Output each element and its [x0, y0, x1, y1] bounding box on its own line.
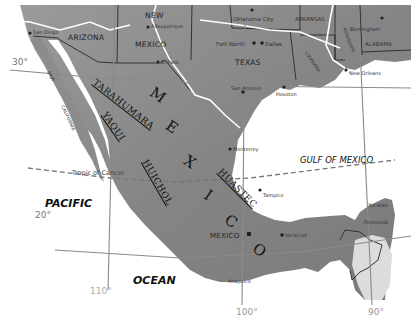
latitude-label-30: 30° [12, 58, 28, 67]
state-label-mexico: MEXICO [135, 41, 167, 49]
city-label-yucatan: Yucatan [368, 203, 388, 208]
city-label-dallas: Dallas [265, 42, 282, 48]
city-label-el-paso: El Paso [161, 60, 179, 65]
city-label-tampico: Tampico [263, 193, 284, 198]
city-label-acapulco: Acapulco [228, 279, 251, 284]
city-label-peninsula: Peninsula [364, 220, 388, 225]
state-label-arizona: ARIZONA [68, 34, 104, 42]
ocean-label-ocean: OCEAN [133, 275, 176, 286]
city-label-houston: Houston [276, 92, 297, 97]
map-of-mexico: ARIZONA NEW MEXICO TEXAS ARKANSAS LOUISI… [0, 0, 411, 323]
city-label-new-orleans: New Orleans [349, 71, 381, 76]
state-label-arkansas: ARKANSAS [295, 17, 325, 23]
city-label-san-antonio: San Antonio [231, 86, 261, 91]
city-label-albuquerque: Albuquerque [151, 24, 183, 29]
city-label-san-diego: San Diego [33, 30, 59, 35]
ocean-label-gulf-of-mexico: GULF OF MEXICO [300, 156, 373, 165]
tropic-of-cancer-label: Tropic of Cancer [72, 170, 124, 177]
city-label-fort-worth: Fort Worth [216, 42, 245, 48]
city-label-birmingham: Birmingham [350, 27, 381, 32]
longitude-label-110: 110° [90, 287, 112, 296]
latitude-label-20: 20° [35, 211, 51, 220]
state-label-texas: TEXAS [235, 59, 261, 67]
longitude-label-90: 90° [368, 308, 384, 317]
longitude-label-100: 100° [236, 308, 258, 317]
city-label-monterrey: Monterrey [233, 147, 259, 152]
city-label-mexico-city: MEXICO [210, 233, 240, 240]
state-label-new: NEW [145, 12, 164, 20]
state-label-alabama: ALABAMA [365, 42, 392, 48]
ocean-label-pacific: PACIFIC [45, 198, 92, 209]
city-label-oklahoma-city: Oklahoma City [233, 17, 274, 23]
city-label-veracruz: Veracruz [285, 233, 307, 238]
